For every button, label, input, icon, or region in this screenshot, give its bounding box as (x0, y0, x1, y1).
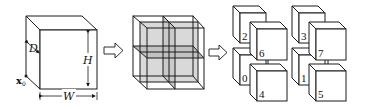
octant-cube-6: 6 (250, 22, 287, 60)
origin-point: x 0 (16, 75, 28, 88)
width-label: W (63, 90, 76, 103)
svg-text:4: 4 (259, 88, 265, 100)
svg-text:3: 3 (301, 30, 307, 42)
width-dimension: W (40, 89, 97, 103)
right-arrow-icon (209, 45, 227, 60)
svg-text:7: 7 (318, 47, 324, 59)
svg-text:2: 2 (242, 30, 248, 42)
octree-diagram: D H W x 0 (0, 0, 365, 109)
height-label: H (82, 54, 93, 67)
svg-text:0: 0 (242, 72, 248, 84)
octant-cubes: 2 0 6 4 3 (233, 6, 346, 101)
depth-label: D (28, 42, 38, 55)
octant-cube-5: 5 (309, 64, 346, 101)
subdivided-box (133, 16, 204, 89)
svg-text:1: 1 (301, 72, 307, 84)
svg-text:5: 5 (318, 88, 324, 100)
right-arrow-icon (104, 43, 123, 58)
origin-subscript: 0 (22, 80, 26, 87)
octant-cube-4: 4 (250, 64, 287, 101)
octant-cube-7: 7 (309, 22, 346, 60)
depth-dimension: D (28, 42, 39, 55)
svg-text:6: 6 (259, 47, 265, 59)
